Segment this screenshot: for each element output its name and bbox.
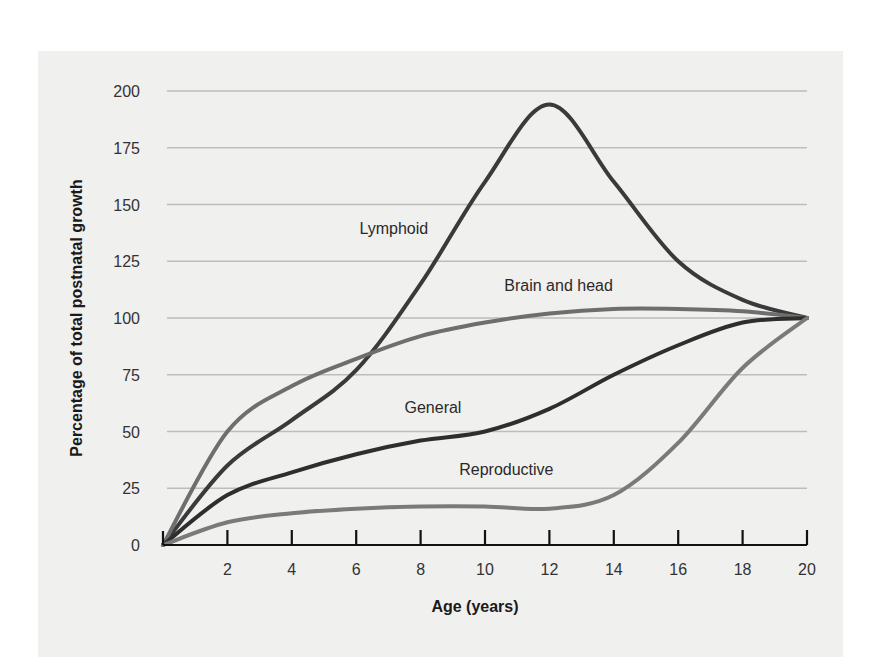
y-tick-labels: 0255075100125150175200 — [113, 83, 140, 554]
x-tick-label: 8 — [416, 561, 425, 578]
y-tick-label: 25 — [122, 480, 140, 497]
curve-brain-and-head — [163, 308, 807, 545]
x-tick-label: 20 — [798, 561, 816, 578]
x-tick-label: 12 — [541, 561, 559, 578]
curve-lymphoid — [163, 105, 807, 545]
x-axis-title: Age (years) — [431, 598, 518, 615]
y-tick-label: 50 — [122, 424, 140, 441]
x-tick-label: 14 — [605, 561, 623, 578]
y-tick-label: 200 — [113, 83, 140, 100]
x-tick-label: 16 — [669, 561, 687, 578]
y-tick-label: 125 — [113, 253, 140, 270]
series-labels: LymphoidBrain and headGeneralReproductiv… — [359, 220, 612, 478]
label-brain-and-head: Brain and head — [504, 277, 613, 294]
y-tick-label: 100 — [113, 310, 140, 327]
y-axis-title: Percentage of total postnatal growth — [68, 179, 85, 456]
label-general: General — [405, 399, 462, 416]
x-tick-label: 10 — [476, 561, 494, 578]
x-tick-label: 4 — [287, 561, 296, 578]
y-tick-label: 0 — [131, 537, 140, 554]
y-tick-label: 175 — [113, 140, 140, 157]
gridlines — [167, 91, 807, 488]
label-lymphoid: Lymphoid — [359, 220, 428, 237]
x-tick-label: 6 — [352, 561, 361, 578]
axes — [163, 530, 807, 545]
x-tick-labels: 2468101214161820 — [223, 561, 816, 578]
x-tick-label: 18 — [734, 561, 752, 578]
growth-curves-chart: 0255075100125150175200 2468101214161820 … — [0, 0, 871, 657]
label-reproductive: Reproductive — [459, 461, 553, 478]
x-tick-label: 2 — [223, 561, 232, 578]
y-tick-label: 150 — [113, 197, 140, 214]
y-tick-label: 75 — [122, 367, 140, 384]
series-curves — [163, 105, 807, 545]
